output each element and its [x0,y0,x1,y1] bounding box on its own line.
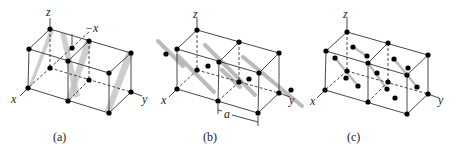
axis-label-z: z [46,6,51,18]
axis-label-neg-x: −x [85,22,98,34]
axis-label-z: z [343,8,348,20]
axis-label-x: x [161,94,166,106]
axis-label-x: x [11,93,16,105]
axis-label-z: z [193,8,198,20]
panel-caption-c: (c) [347,131,360,143]
panel-a-lattice [20,18,142,116]
panel-b-lattice [158,18,302,126]
panel-c-lattice [317,18,439,117]
axis-label-y: y [289,94,294,106]
axis-label-y: y [142,93,147,105]
lattice-constant-label: a [224,108,230,120]
plane-shading [158,41,183,66]
plane-shading [178,56,214,92]
crystal-lattice-figure: z −x x y (a) z x y a (b) z x y (c) [0,0,457,156]
axis-label-x: x [310,95,315,107]
plane-shading [368,63,387,89]
panel-caption-a: (a) [53,131,66,143]
panel-caption-b: (b) [203,131,217,143]
axis-label-y: y [438,94,443,106]
